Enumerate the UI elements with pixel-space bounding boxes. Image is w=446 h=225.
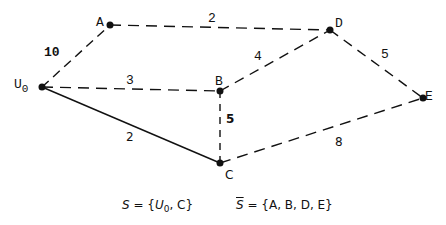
caption-sbar-set: S = {A, B, D, E} — [236, 198, 333, 212]
weight-u0-b: 3 — [126, 73, 134, 88]
label-e: E — [425, 89, 433, 104]
weight-u0-a: 10 — [44, 45, 60, 60]
weight-b-c: 5 — [226, 112, 234, 126]
label-c: C — [225, 168, 233, 182]
node-u0 — [39, 84, 46, 91]
label-b: B — [215, 74, 223, 89]
edge-c-e — [220, 98, 423, 163]
edge-a-d — [110, 25, 330, 30]
node-c — [217, 160, 224, 167]
caption-s-set: S = {U0, C} — [122, 198, 193, 214]
weight-a-d: 2 — [208, 11, 216, 26]
edge-u0-c — [42, 87, 220, 163]
graph-diagram: A D U0 B E C 10 2 3 4 5 2 5 8 — [0, 0, 446, 225]
weight-b-d: 4 — [254, 49, 262, 64]
label-d: D — [335, 16, 343, 31]
weight-u0-c: 2 — [126, 130, 134, 144]
node-a — [107, 22, 114, 29]
label-a: A — [96, 15, 104, 30]
node-d — [327, 27, 334, 34]
weight-c-e: 8 — [335, 135, 343, 149]
label-u0: U0 — [14, 77, 28, 95]
weight-d-e: 5 — [381, 47, 389, 62]
edge-b-d — [220, 30, 330, 91]
edge-d-e — [330, 30, 423, 98]
